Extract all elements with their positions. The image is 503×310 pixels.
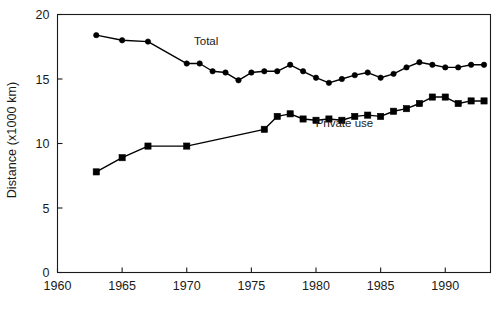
x-tick-label: 1975 [237, 279, 265, 293]
x-tick-label: 1980 [302, 279, 330, 293]
data-point-marker [261, 126, 267, 132]
x-tick-label: 1985 [367, 279, 395, 293]
x-tick-label: 1990 [431, 279, 459, 293]
data-point-marker [468, 62, 473, 67]
y-tick-label: 20 [36, 8, 50, 22]
line-chart-plot: 05101520 1960196519701975198019851990 To… [0, 0, 503, 310]
series-label-private-use: Private use [316, 117, 374, 129]
data-point-marker [468, 98, 474, 104]
data-point-marker [378, 113, 384, 119]
y-tick-layer: 05101520 [36, 8, 63, 280]
data-point-marker [184, 143, 190, 149]
data-point-marker [481, 62, 486, 67]
data-point-marker [210, 69, 215, 74]
data-point-marker [455, 100, 461, 106]
data-point-marker [326, 80, 331, 85]
data-point-marker [391, 71, 396, 76]
data-point-marker [275, 69, 280, 74]
data-point-marker [429, 94, 435, 100]
data-point-marker [145, 143, 151, 149]
data-point-marker [365, 70, 370, 75]
series-private-use [93, 94, 487, 175]
data-point-marker [119, 155, 125, 161]
series-line [96, 35, 484, 83]
data-point-marker [313, 75, 318, 80]
data-point-marker [274, 113, 280, 119]
x-tick-label: 1960 [44, 279, 72, 293]
series-total [94, 32, 487, 85]
data-point-marker [339, 76, 344, 81]
y-tick-label: 5 [43, 202, 50, 216]
plot-frame [58, 15, 491, 273]
series-label-total: Total [194, 35, 218, 47]
data-point-marker [443, 65, 448, 70]
data-point-marker [390, 108, 396, 114]
chart-figure: Distance (x1000 km) 05101520 19601965197… [0, 0, 503, 310]
data-point-marker [94, 32, 99, 37]
data-point-marker [145, 39, 150, 44]
data-point-marker [287, 111, 293, 117]
series-line [96, 97, 484, 172]
data-point-marker [378, 75, 383, 80]
data-point-marker [119, 38, 124, 43]
data-point-marker [249, 70, 254, 75]
data-point-marker [287, 62, 292, 67]
data-point-marker [223, 70, 228, 75]
data-point-marker [416, 100, 422, 106]
data-point-marker [300, 116, 306, 122]
data-point-marker [481, 98, 487, 104]
data-point-marker [442, 94, 448, 100]
data-point-marker [197, 61, 202, 66]
data-point-marker [236, 78, 241, 83]
x-tick-label: 1970 [173, 279, 201, 293]
y-tick-label: 15 [36, 73, 50, 87]
data-point-marker [430, 62, 435, 67]
data-point-marker [300, 69, 305, 74]
y-axis-label: Distance (x1000 km) [5, 82, 19, 199]
data-point-marker [262, 69, 267, 74]
data-point-marker [403, 106, 409, 112]
data-point-marker [93, 169, 99, 175]
data-point-marker [404, 65, 409, 70]
data-point-marker [455, 65, 460, 70]
x-tick-layer: 1960196519701975198019851990 [44, 268, 460, 293]
axes-layer [58, 15, 491, 273]
data-point-marker [352, 72, 357, 77]
data-series-layer [93, 32, 487, 175]
data-point-marker [417, 60, 422, 65]
data-point-marker [184, 61, 189, 66]
y-axis-label-container: Distance (x1000 km) [0, 0, 24, 280]
y-tick-label: 10 [36, 137, 50, 151]
x-tick-label: 1965 [108, 279, 136, 293]
